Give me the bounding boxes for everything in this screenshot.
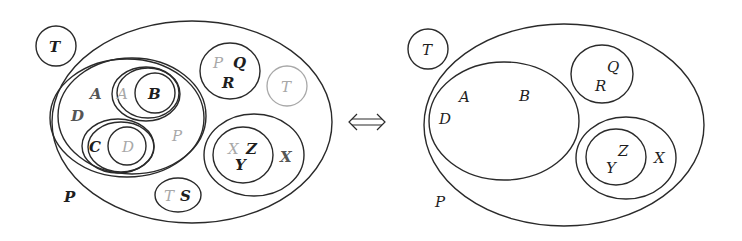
left-label-A: A [88, 85, 102, 103]
left-label-D: D [70, 107, 84, 125]
right-label-D: D [438, 110, 451, 128]
left-label-X: X [279, 148, 293, 166]
left-label-P: P [63, 188, 76, 206]
right-label-A: A [457, 88, 470, 106]
right-set-YZ [586, 129, 646, 185]
equivalence-arrow-icon [349, 114, 385, 130]
left-label-C: C [89, 138, 101, 156]
right-label-R: R [594, 77, 606, 95]
left-label-S: S [180, 187, 191, 205]
left-label-B: B [147, 85, 161, 103]
right-label-B: B [518, 87, 530, 105]
left-label-Y: Y [235, 156, 247, 174]
left-faint-label-T: T [281, 78, 292, 96]
left-outer-ellipse-P [52, 21, 332, 223]
left-label-Z: Z [245, 140, 258, 158]
left-faint-label-P-in-QR: P [212, 54, 224, 72]
right-label-X: X [653, 149, 666, 167]
right-diagram: T P A B D Q R X Z Y [408, 24, 704, 226]
left-label-Q: Q [233, 54, 246, 72]
right-label-T-outside: T [422, 41, 433, 59]
left-set-YZ [213, 127, 273, 183]
right-big-set [429, 62, 579, 180]
left-label-T-outside: T [49, 38, 62, 56]
left-set-S [155, 178, 201, 212]
right-label-Y: Y [606, 159, 618, 177]
left-faint-label-D: D [121, 138, 134, 156]
left-diagram: T P A D P A B C D P Q R T T S X X Z Y [36, 21, 332, 223]
left-label-R: R [221, 74, 234, 92]
right-label-Q: Q [607, 58, 619, 76]
right-label-P: P [434, 193, 446, 211]
diagram-canvas: T P A D P A B C D P Q R T T S X X Z Y [0, 0, 742, 241]
right-outer-ellipse-P [424, 24, 704, 226]
left-faint-label-P: P [171, 127, 183, 145]
left-faint-label-A: A [115, 85, 128, 103]
right-label-Z: Z [617, 142, 629, 160]
left-faint-label-T-in-S: T [164, 187, 175, 205]
